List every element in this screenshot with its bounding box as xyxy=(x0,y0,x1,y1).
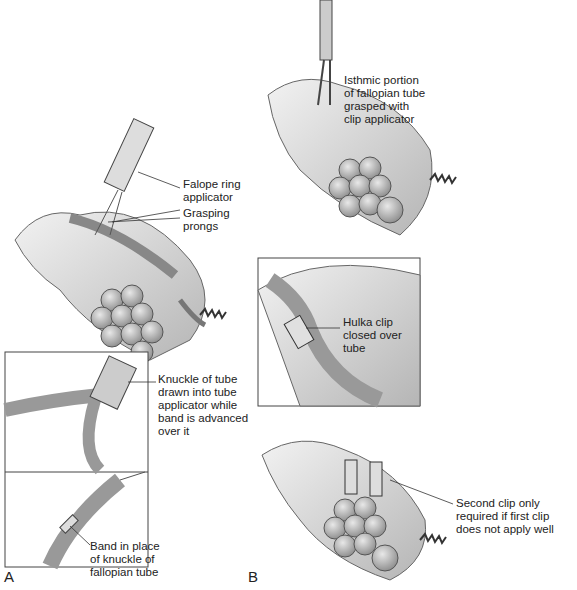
panel-a-uterus xyxy=(15,119,226,363)
label-falope-ring-applicator: Falope ring applicator xyxy=(183,178,241,204)
panel-label-a: A xyxy=(4,568,14,585)
label-band-in-place: Band in place of knuckle of fallopian tu… xyxy=(90,540,160,579)
panel-a-inset xyxy=(5,352,156,567)
panel-label-b: B xyxy=(248,568,258,585)
label-second-clip: Second clip only required if first clip … xyxy=(456,497,554,536)
label-grasping-prongs: Grasping prongs xyxy=(183,207,230,233)
label-knuckle: Knuckle of tube drawn into tube applicat… xyxy=(158,373,248,438)
label-hulka-clip: Hulka clip closed over tube xyxy=(343,316,402,355)
panel-b-two-clips xyxy=(262,441,453,580)
label-isthmic: Isthmic portion of fallopian tube graspe… xyxy=(344,74,425,126)
